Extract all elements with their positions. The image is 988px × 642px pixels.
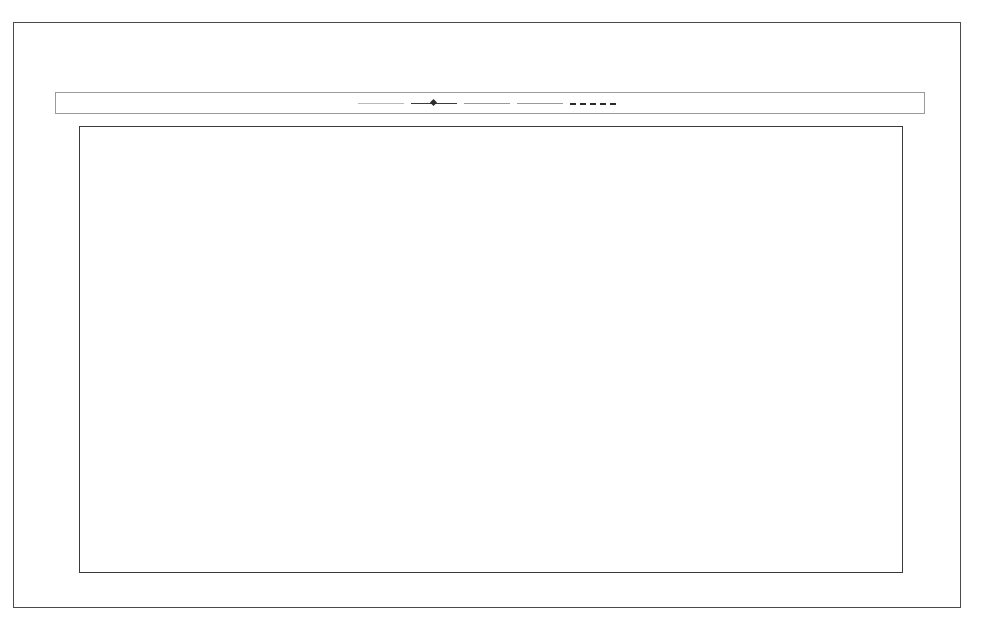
plot-wrapper (0, 0, 988, 642)
chart-canvas (80, 127, 902, 572)
plot-area (79, 126, 903, 573)
